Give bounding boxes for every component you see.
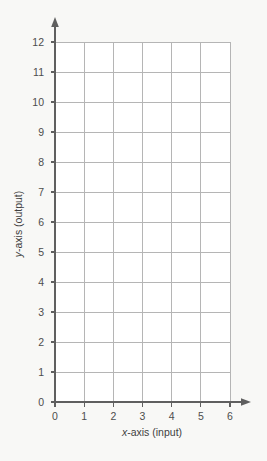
y-tick-label-11: 11 <box>14 67 44 78</box>
x-axis-arrowhead-icon <box>241 398 251 406</box>
x-tick-label-3: 3 <box>140 411 146 422</box>
y-tick-label-4: 4 <box>14 277 44 288</box>
y-tick-label-0: 0 <box>14 397 44 408</box>
y-tick-label-12: 12 <box>14 37 44 48</box>
y-tick-label-10: 10 <box>14 97 44 108</box>
y-tick-label-2: 2 <box>14 337 44 348</box>
y-tick-label-1: 1 <box>14 367 44 378</box>
y-tick-label-3: 3 <box>14 307 44 318</box>
x-tick-label-4: 4 <box>169 411 175 422</box>
x-tick-label-2: 2 <box>110 411 116 422</box>
x-tick-label-1: 1 <box>81 411 87 422</box>
y-axis-title-rest: -axis (output) <box>12 191 24 252</box>
y-axis-title-variable: y <box>12 252 24 257</box>
x-axis-title-rest: -axis (input) <box>127 426 182 438</box>
blank-coordinate-grid-figure: 12 11 10 9 8 7 6 5 4 3 2 1 0 0 1 2 3 4 5… <box>0 0 267 461</box>
y-axis-arrowhead-icon <box>51 17 59 27</box>
x-tick-label-6: 6 <box>227 411 233 422</box>
x-axis-title: x-axis (input) <box>122 427 182 438</box>
x-tick-label-0: 0 <box>52 411 58 422</box>
y-tick-label-9: 9 <box>14 127 44 138</box>
x-tick-label-5: 5 <box>198 411 204 422</box>
x-axis-ticks <box>55 402 230 407</box>
y-tick-label-8: 8 <box>14 157 44 168</box>
y-axis-title: y-axis (output) <box>13 191 24 258</box>
